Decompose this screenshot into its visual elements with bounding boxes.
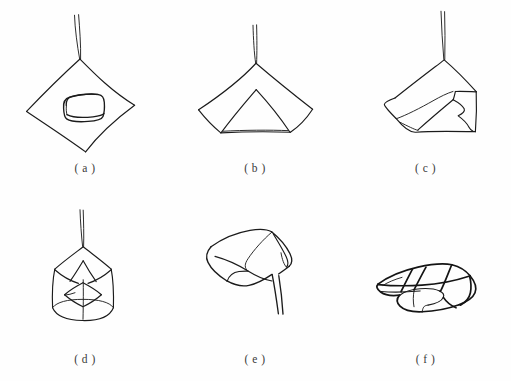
panel-d-caption: ( d ) <box>74 354 96 381</box>
panel-a-drawing <box>0 0 170 163</box>
panel-c-drawing <box>340 0 511 163</box>
figure-panel-a: ( a ) <box>0 0 170 190</box>
panel-c-caption: ( c ) <box>415 163 436 191</box>
panel-e-svg <box>170 190 340 354</box>
panel-a-caption: ( a ) <box>74 163 95 191</box>
panel-d-drawing <box>0 190 170 354</box>
panel-d-svg <box>0 190 170 354</box>
panel-b-svg <box>170 0 340 163</box>
figure-panel-c: ( c ) <box>340 0 511 190</box>
figure-sheet: ( a ) <box>0 0 511 381</box>
panel-f-caption: ( f ) <box>416 354 436 381</box>
panel-f-svg <box>340 190 511 354</box>
figure-panel-f: ( f ) <box>340 190 511 381</box>
figure-panel-b: ( b ) <box>170 0 340 190</box>
panel-grid: ( a ) <box>0 0 511 381</box>
panel-e-drawing <box>170 190 340 354</box>
panel-b-caption: ( b ) <box>244 163 266 191</box>
panel-a-svg <box>0 0 170 163</box>
panel-e-caption: ( e ) <box>244 354 265 381</box>
figure-panel-d: ( d ) <box>0 190 170 381</box>
panel-f-drawing <box>340 190 511 354</box>
figure-panel-e: ( e ) <box>170 190 340 381</box>
panel-b-drawing <box>170 0 340 163</box>
panel-c-svg <box>340 0 511 163</box>
